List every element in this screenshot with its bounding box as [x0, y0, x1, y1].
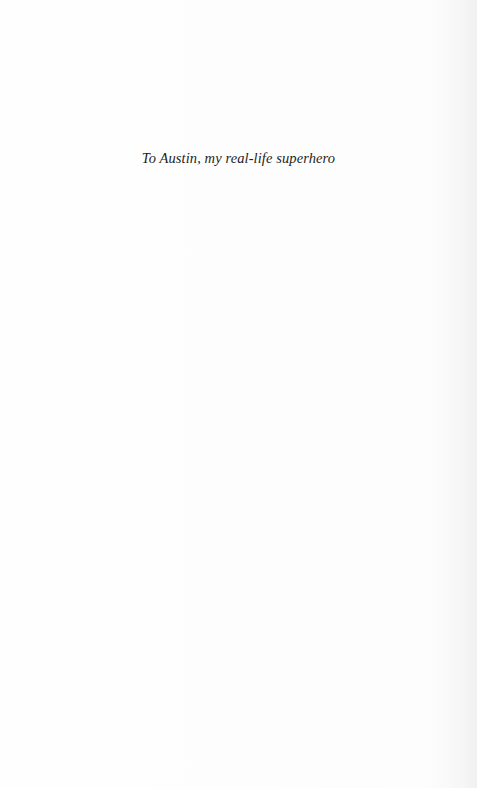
dedication-text: To Austin, my real-life superhero [0, 150, 477, 167]
book-page: To Austin, my real-life superhero [0, 0, 477, 788]
